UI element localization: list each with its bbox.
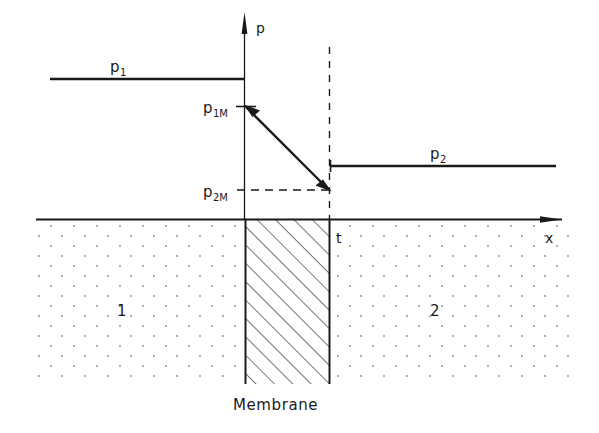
label-p1m-subscript: 1M: [213, 108, 228, 119]
label-p2: p 2: [430, 145, 446, 165]
soil-region-left: [36, 220, 245, 385]
pressure-drop-line: [244, 105, 332, 192]
label-region-1: 1: [117, 302, 127, 320]
label-p2-base: p: [430, 145, 440, 163]
label-membrane: Membrane: [233, 396, 318, 414]
label-p1m: p 1M: [203, 99, 228, 119]
figure-pressure-across-membrane: p x p 1 p 1M p 2M p 2 t 1 2 Membrane: [0, 0, 599, 433]
soil-region-right: [330, 220, 570, 385]
label-p1: p 1: [110, 58, 126, 78]
label-thickness-t: t: [336, 230, 342, 246]
membrane-hatched-block: [245, 219, 330, 384]
diagram-svg: p x p 1 p 1M p 2M p 2 t 1 2 Membrane: [0, 0, 599, 433]
label-p1-subscript: 1: [120, 67, 126, 78]
label-p2-subscript: 2: [440, 154, 446, 165]
label-p2m-subscript: 2M: [213, 192, 228, 203]
label-p2m: p 2M: [203, 183, 228, 203]
label-p1-base: p: [110, 58, 120, 76]
x-axis-label: x: [545, 230, 553, 246]
p-axis-arrowhead: [242, 12, 248, 34]
p-axis-label: p: [256, 20, 265, 36]
label-p2m-base: p: [203, 183, 213, 201]
p-axis: [242, 12, 248, 219]
label-region-2: 2: [430, 302, 440, 320]
label-p1m-base: p: [203, 99, 213, 117]
